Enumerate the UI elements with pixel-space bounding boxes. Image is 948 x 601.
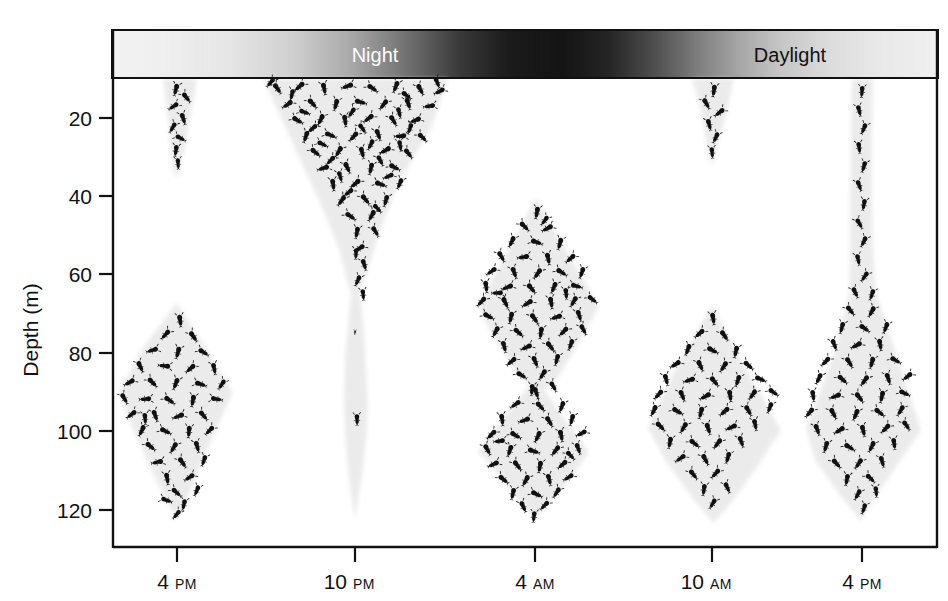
y-tick-label-100: 100	[57, 420, 92, 443]
krill-migration-figure: Night Daylight	[0, 0, 948, 601]
x-tick-period-2: PM	[353, 576, 375, 592]
x-tick-period-1: PM	[175, 576, 197, 592]
x-tick-period-3: AM	[533, 576, 555, 592]
daylight-label: Daylight	[754, 44, 827, 66]
y-tick-label-20: 20	[69, 107, 92, 130]
y-tick-label-80: 80	[69, 342, 92, 365]
figure-canvas: Night Daylight	[0, 0, 948, 601]
figure-background	[0, 0, 948, 601]
x-tick-period-4: AM	[710, 576, 732, 592]
y-tick-label-40: 40	[69, 185, 92, 208]
x-tick-hour-3: 4	[515, 570, 527, 593]
y-tick-label-120: 120	[57, 499, 92, 522]
x-tick-period-5: PM	[860, 576, 882, 592]
y-axis-title: Depth (m)	[19, 283, 42, 376]
night-label: Night	[352, 44, 399, 66]
light-condition-band: Night Daylight	[112, 30, 938, 78]
x-tick-hour-1: 4	[157, 570, 169, 593]
x-tick-hour-2: 10	[324, 570, 347, 593]
x-tick-hour-5: 4	[842, 570, 854, 593]
y-tick-label-60: 60	[69, 263, 92, 286]
x-tick-hour-4: 10	[681, 570, 704, 593]
